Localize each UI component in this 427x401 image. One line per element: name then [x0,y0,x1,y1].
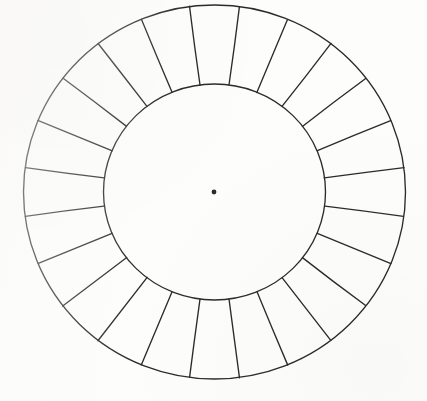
wheel-segment-divider [26,168,105,178]
wheel-segment-divider [282,43,331,106]
color-wheel-diagram [0,0,427,401]
wheel-segment-divider [63,258,127,307]
wheel-segment-divider [317,233,391,263]
wheel-segment-divider [229,299,239,378]
wheel-segment-divider [141,19,172,92]
wheel-segment-divider [98,277,147,340]
wheel-segment-divider [25,206,104,216]
wheel-segment-divider [38,233,112,263]
wheel-segment-divider [98,43,147,106]
wheel-segment-divider [257,292,288,365]
color-wheel-page [0,0,427,401]
wheel-segment-divider [302,258,365,306]
wheel-segment-divider [63,78,126,126]
wheel-segment-divider [324,168,404,178]
wheel-segment-divider [325,206,404,216]
wheel-segment-divider [141,292,172,365]
wheel-segment-divider [282,278,331,341]
wheel-segment-divider [190,299,200,377]
wheel-segment-divider [38,120,113,150]
wheel-segment-divider [257,20,288,93]
wheel-segment-divider [229,7,239,85]
wheel-segment-divider [317,121,390,151]
center-point-dot [212,190,217,195]
wheel-segment-divider [190,6,201,85]
wheel-segment-divider [302,78,365,126]
